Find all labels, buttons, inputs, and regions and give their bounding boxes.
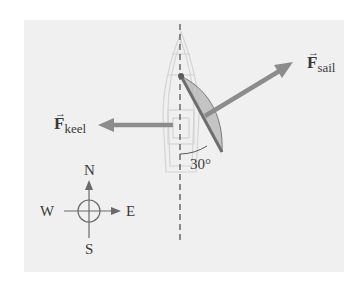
angle-label: 30°	[190, 157, 211, 172]
sail-force-label: → Fsail	[307, 54, 335, 71]
sail-force-arrow	[205, 62, 293, 116]
sail	[178, 73, 222, 152]
keel-force-arrow	[98, 118, 173, 132]
force-subscript: keel	[64, 121, 86, 136]
keel-force-label: → Fkeel	[54, 115, 86, 132]
compass-north-label: N	[84, 163, 95, 178]
compass-west-label: W	[40, 204, 54, 219]
sailboat-force-diagram	[0, 0, 359, 283]
compass-rose	[64, 180, 121, 238]
angle-arc	[180, 146, 207, 154]
compass-south-label: S	[85, 242, 93, 257]
force-subscript: sail	[317, 60, 335, 75]
vector-arrow-icon: →	[308, 47, 319, 58]
compass-east-label: E	[126, 204, 135, 219]
vector-arrow-icon: →	[55, 108, 66, 119]
